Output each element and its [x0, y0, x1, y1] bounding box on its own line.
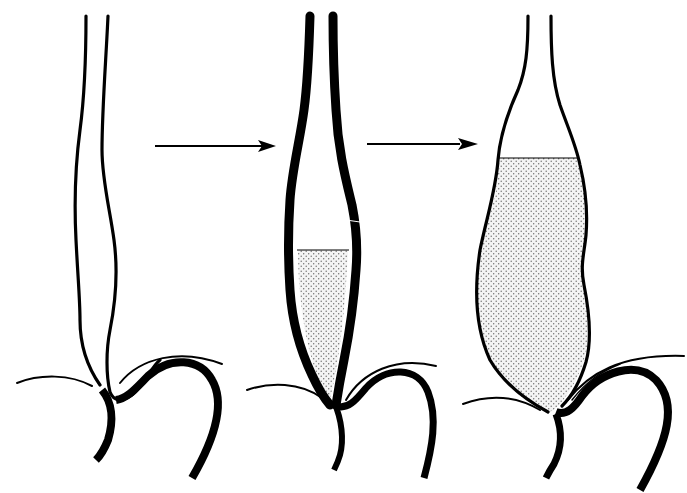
stage-2-lower-segment	[334, 402, 342, 470]
stage-2-stomach-curve	[336, 372, 433, 478]
stage-1-left-wall	[75, 16, 100, 385]
stage-3-esophagus	[463, 16, 684, 490]
diagram-svg	[0, 0, 687, 493]
stage-1-stomach-curve	[116, 362, 218, 478]
diagram-canvas	[0, 0, 687, 493]
arrow-stage-1-to-2	[155, 140, 276, 152]
arrowhead-icon	[458, 138, 478, 150]
stage-1-esophagus	[17, 16, 222, 478]
arrow-stage-2-to-3	[367, 138, 478, 150]
stage-1-diaphragm-left	[17, 377, 92, 386]
stage-3-lower-segment	[546, 414, 560, 478]
stage-1-lower-segment	[96, 390, 111, 460]
stage-1-right-wall	[102, 16, 160, 400]
stage-3-stomach-curve	[556, 370, 668, 490]
stage-2-diaphragm-left	[247, 385, 322, 398]
stage-2-esophagus	[247, 16, 436, 478]
